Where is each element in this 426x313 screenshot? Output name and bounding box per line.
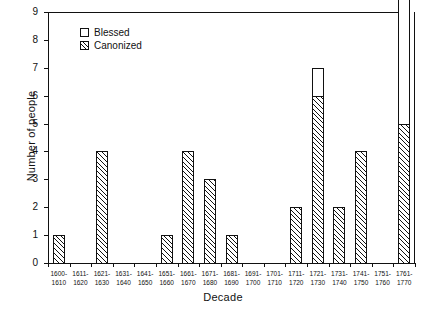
y-tick-label: 0 xyxy=(16,258,38,268)
bar-segment-canonized xyxy=(290,207,302,264)
y-tick-label: 3 xyxy=(16,174,38,184)
legend-swatch-blessed xyxy=(80,28,89,37)
bar-segment-canonized xyxy=(333,207,345,264)
bar-column xyxy=(53,0,65,313)
bar-segment-canonized xyxy=(204,179,216,264)
bar-segment-canonized xyxy=(312,96,324,264)
bar-column xyxy=(333,0,345,313)
bar-column xyxy=(226,0,238,313)
bar-segment-blessed xyxy=(312,68,324,97)
y-tick-label: 8 xyxy=(16,35,38,45)
legend-item-blessed: Blessed xyxy=(80,26,142,39)
chart-legend: Blessed Canonized xyxy=(80,26,142,52)
y-tick-label: 5 xyxy=(16,119,38,129)
bar-column xyxy=(182,0,194,313)
bar-segment-canonized xyxy=(53,235,65,264)
bar-chart: Number of people Decade Blessed Canonize… xyxy=(0,0,426,313)
bar-segment-canonized xyxy=(398,124,410,264)
y-tick-label: 1 xyxy=(16,230,38,240)
y-tick-label: 4 xyxy=(16,146,38,156)
y-tick-label: 6 xyxy=(16,91,38,101)
y-tick-label: 9 xyxy=(16,7,38,17)
bar-segment-canonized xyxy=(355,151,367,264)
bar-column xyxy=(96,0,108,313)
bar-column xyxy=(204,0,216,313)
bar-column xyxy=(398,0,410,313)
legend-item-canonized: Canonized xyxy=(80,39,142,52)
y-tick-label: 2 xyxy=(16,202,38,212)
y-axis-title: Number of people xyxy=(25,56,37,216)
bar-segment-canonized xyxy=(161,235,173,264)
bar-segment-canonized xyxy=(96,151,108,264)
bar-column xyxy=(161,0,173,313)
y-tick-label: 7 xyxy=(16,63,38,73)
bar-column xyxy=(290,0,302,313)
bar-column xyxy=(312,0,324,313)
bar-segment-canonized xyxy=(226,235,238,264)
legend-swatch-canonized xyxy=(80,41,89,50)
bar-column xyxy=(355,0,367,313)
bar-segment-blessed xyxy=(398,0,410,125)
bar-segment-canonized xyxy=(182,151,194,264)
